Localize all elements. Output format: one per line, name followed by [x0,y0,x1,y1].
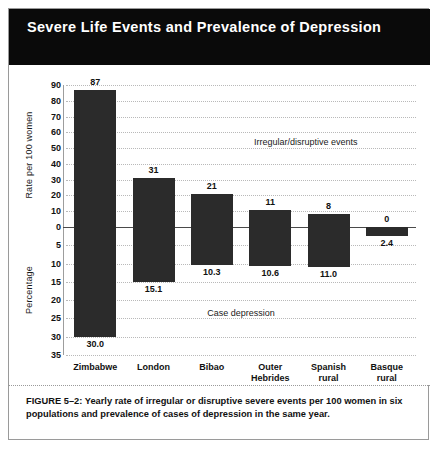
plot-area: 8730.03115.12110.31110.6811.002.4Irregul… [66,85,416,355]
grid-line [66,355,416,356]
grid-line [66,282,416,283]
y-tick-label-rate-20: 20 [35,191,61,200]
y-tick-label-rate-30: 30 [35,176,61,185]
y-tick-label-rate-60: 60 [35,128,61,137]
bar-depression-4 [308,227,350,267]
bar-value-depression-2: 10.3 [192,268,232,277]
grid-line [66,195,416,196]
y-tick-label-pct-30: 30 [35,333,61,342]
bar-value-events-5: 0 [367,215,407,224]
y-axis-line [63,85,64,355]
x-axis-label-2: Bibao [180,362,244,373]
annotation-case-depression: Case depression [66,308,416,318]
grid-line [66,164,416,165]
y-tick-label-rate-50: 50 [35,144,61,153]
grid-line [66,211,416,212]
figure-caption-box: FIGURE 5–2: Yearly rate of irregular or … [9,385,430,440]
x-axis-label-3: OuterHebrides [238,362,302,383]
bar-events-2 [191,194,233,227]
bar-value-events-1: 31 [134,166,174,175]
y-axis-title-percentage: Percentage [24,240,34,340]
grid-line [66,117,416,118]
x-axis-label-1: London [122,362,186,373]
x-axis-label-0: Zimbabwe [63,362,127,373]
bar-value-depression-1: 15.1 [134,285,174,294]
bar-depression-3 [249,227,291,266]
bar-depression-0 [74,227,116,337]
bar-events-3 [249,210,291,227]
x-axis-label-4: Spanishrural [297,362,361,383]
grid-line [66,132,416,133]
bar-value-depression-4: 11.0 [309,270,349,279]
y-axis-title-rate: Rate per 100 women [24,105,34,205]
y-tick-label-pct-15: 15 [35,278,61,287]
bar-value-depression-3: 10.6 [250,269,290,278]
y-tick-label-rate-0: 0 [35,223,61,232]
y-tick-label-rate-40: 40 [35,160,61,169]
figure-title: Severe Life Events and Prevalence of Dep… [27,18,397,36]
y-tick-label-pct-35: 35 [35,351,61,360]
y-tick-label-rate-90: 90 [35,81,61,90]
bar-events-4 [308,214,350,227]
grid-line [66,148,416,149]
bar-depression-1 [133,227,175,282]
y-tick-label-pct-25: 25 [35,314,61,323]
bar-value-events-0: 87 [75,78,115,87]
annotation-irregular-events: Irregular/disruptive events [254,137,358,147]
figure-frame: Severe Life Events and Prevalence of Dep… [8,8,429,440]
figure-caption: FIGURE 5–2: Yearly rate of irregular or … [26,395,414,420]
y-tick-label-pct-10: 10 [35,260,61,269]
y-tick-label-rate-10: 10 [35,207,61,216]
y-tick-label-pct-5: 5 [35,241,61,250]
bar-events-1 [133,178,175,227]
bar-value-depression-5: 2.4 [367,239,407,248]
grid-line [66,101,416,102]
y-tick-label-pct-20: 20 [35,296,61,305]
grid-line [66,337,416,338]
bar-value-events-4: 8 [309,202,349,211]
y-tick-label-rate-80: 80 [35,97,61,106]
grid-line [66,264,416,265]
grid-line [66,300,416,301]
bar-depression-2 [191,227,233,265]
grid-line [66,245,416,246]
bar-events-0 [74,90,116,227]
chart-region: 90807060504030201005101520253035 8730.03… [9,65,430,385]
x-axis-label-5: Basquerural [355,362,419,383]
bar-value-depression-0: 30.0 [75,340,115,349]
bar-value-events-3: 11 [250,198,290,207]
y-tick-label-rate-70: 70 [35,113,61,122]
bar-value-events-2: 21 [192,182,232,191]
grid-line [66,85,416,86]
figure-title-bar: Severe Life Events and Prevalence of Dep… [9,9,430,65]
grid-line [66,180,416,181]
bar-depression-5 [366,227,408,236]
grid-line [66,318,416,319]
